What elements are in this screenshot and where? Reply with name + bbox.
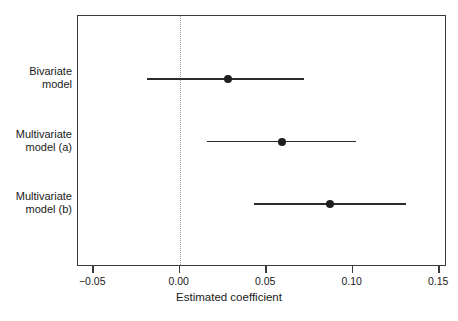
y-axis-label-line: model — [0, 78, 72, 91]
y-axis-label-line: model (a) — [0, 141, 72, 154]
y-axis-label-line: Multivariate — [0, 128, 72, 141]
x-axis-tick-label: 0.10 — [322, 275, 382, 287]
y-axis-label-line: Multivariate — [0, 190, 72, 203]
estimate-point-marker — [278, 138, 286, 146]
x-axis-tick — [179, 266, 180, 273]
estimate-point-marker — [326, 200, 334, 208]
x-axis-title: Estimated coefficient — [0, 291, 458, 303]
x-axis-tick-label: 0.15 — [408, 275, 458, 287]
y-axis-label: Bivariatemodel — [0, 65, 72, 91]
y-axis-label: Multivariatemodel (b) — [0, 190, 72, 216]
x-axis-tick-label: 0.05 — [235, 275, 295, 287]
estimate-point-marker — [224, 75, 232, 83]
x-axis-tick — [438, 266, 439, 273]
y-axis-label-line: Bivariate — [0, 65, 72, 78]
x-axis-tick — [265, 266, 266, 273]
y-axis-label: Multivariatemodel (a) — [0, 128, 72, 154]
plot-panel — [77, 15, 446, 266]
x-axis-tick-label: −0.05 — [62, 275, 122, 287]
y-axis-label-line: model (b) — [0, 203, 72, 216]
x-axis-tick-label: 0.00 — [149, 275, 209, 287]
zero-reference-line — [180, 16, 181, 265]
forest-plot-figure: −0.050.000.050.100.15 BivariatemodelMult… — [0, 0, 458, 321]
x-axis-tick — [92, 266, 93, 273]
x-axis-tick — [352, 266, 353, 273]
